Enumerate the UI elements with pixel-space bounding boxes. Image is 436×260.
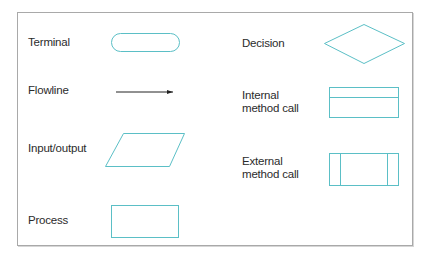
external-method-call-symbol: [330, 154, 399, 186]
input-output-symbol: [106, 134, 185, 167]
terminal-symbol: [112, 34, 180, 52]
internal-method-call-symbol: [330, 88, 399, 118]
process-symbol: [112, 206, 179, 238]
decision-symbol: [325, 25, 405, 64]
